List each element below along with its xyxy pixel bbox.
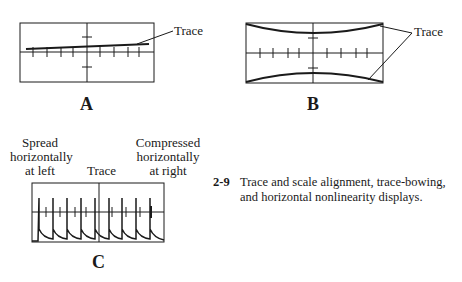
panel-a-letter: A (80, 94, 93, 115)
right-label-line-1: Compressed (128, 136, 208, 150)
panel-c-letter: C (92, 252, 105, 273)
panel-a-trace-label: Trace (174, 24, 203, 38)
panel-b-screen (246, 23, 412, 83)
panel-c-left-label: Spread horizontally at left (10, 136, 70, 178)
caption-line-2: and horizontal nonlinearity displays. (240, 190, 446, 205)
right-label-line-3: at right (128, 164, 208, 178)
right-label-line-2: horizontally (128, 150, 208, 164)
left-label-line-3: at left (10, 164, 70, 178)
panel-b-letter: B (307, 94, 319, 115)
panel-c-trace-label: Trace (87, 164, 116, 178)
left-label-line-2: horizontally (10, 150, 70, 164)
figure-number: 2-9 (213, 175, 230, 190)
panel-a-screen (20, 23, 173, 82)
panel-c-screen (32, 183, 164, 242)
caption-line-1: Trace and scale alignment, trace-bowing, (240, 175, 446, 190)
panel-c-right-label: Compressed horizontally at right (128, 136, 208, 178)
left-label-line-1: Spread (10, 136, 70, 150)
panel-b-trace-label: Trace (414, 25, 443, 39)
figure-caption: Trace and scale alignment, trace-bowing,… (240, 175, 446, 205)
